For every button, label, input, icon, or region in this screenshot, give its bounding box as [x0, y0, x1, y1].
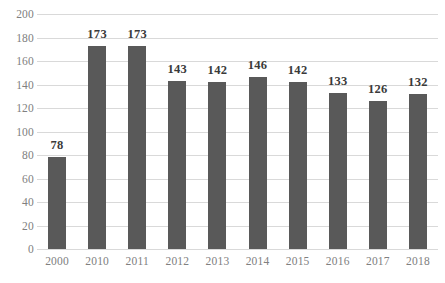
y-axis-tick-label: 160: [0, 55, 34, 67]
bar-group: 142: [197, 14, 237, 249]
bar-value-label: 173: [87, 27, 107, 42]
y-axis-tick-label: 60: [0, 173, 34, 185]
bar-value-label: 173: [127, 27, 147, 42]
bar: [88, 46, 106, 249]
bar-group: 133: [318, 14, 358, 249]
x-axis-tick-label: 2015: [286, 255, 310, 267]
bar-value-label: 142: [288, 63, 308, 78]
y-axis-tick-label: 80: [0, 149, 34, 161]
bar: [329, 93, 347, 249]
bar: [289, 82, 307, 249]
bar-value-label: 132: [408, 75, 428, 90]
y-axis-tick-label: 140: [0, 79, 34, 91]
y-axis-tick-label: 40: [0, 196, 34, 208]
bar: [48, 157, 66, 249]
y-axis-tick-label: 0: [0, 243, 34, 255]
bar-group: 173: [77, 14, 117, 249]
x-axis-tick-label: 2000: [45, 255, 69, 267]
y-axis-tick-label: 180: [0, 32, 34, 44]
x-axis-tick-label: 2017: [366, 255, 390, 267]
bar-value-label: 146: [248, 58, 268, 73]
y-axis-tick-label: 200: [0, 8, 34, 20]
bar: [369, 101, 387, 249]
bar-value-label: 142: [208, 63, 228, 78]
x-axis-tick-label: 2014: [246, 255, 270, 267]
bar-value-label: 78: [50, 138, 63, 153]
y-axis-tick-label: 120: [0, 102, 34, 114]
bar-group: 142: [278, 14, 318, 249]
axis-baseline: [37, 249, 438, 250]
bar-value-label: 126: [368, 82, 388, 97]
bar: [208, 82, 226, 249]
x-axis-tick-label: 2016: [326, 255, 350, 267]
bar: [409, 94, 427, 249]
bar: [168, 81, 186, 249]
x-axis-tick-label: 2018: [406, 255, 430, 267]
bar-group: 143: [157, 14, 197, 249]
y-axis-labels: 020406080100120140160180200: [0, 0, 34, 283]
bar-value-label: 143: [168, 62, 188, 77]
bar-chart: 020406080100120140160180200 781731731431…: [0, 0, 445, 283]
bar-value-label: 133: [328, 74, 348, 89]
x-axis-tick-label: 2013: [206, 255, 230, 267]
bar-group: 126: [358, 14, 398, 249]
x-axis-labels: 2000201020112012201320142015201620172018: [37, 255, 438, 275]
bars-layer: 78173173143142146142133126132: [37, 14, 438, 249]
x-axis-tick-label: 2011: [126, 255, 149, 267]
bar: [128, 46, 146, 249]
x-axis-tick-label: 2012: [165, 255, 189, 267]
x-axis-tick-label: 2010: [85, 255, 109, 267]
bar: [249, 77, 267, 249]
y-axis-tick-label: 20: [0, 220, 34, 232]
bar-group: 173: [117, 14, 157, 249]
bar-group: 78: [37, 14, 77, 249]
bar-group: 132: [398, 14, 438, 249]
y-axis-tick-label: 100: [0, 126, 34, 138]
bar-group: 146: [238, 14, 278, 249]
